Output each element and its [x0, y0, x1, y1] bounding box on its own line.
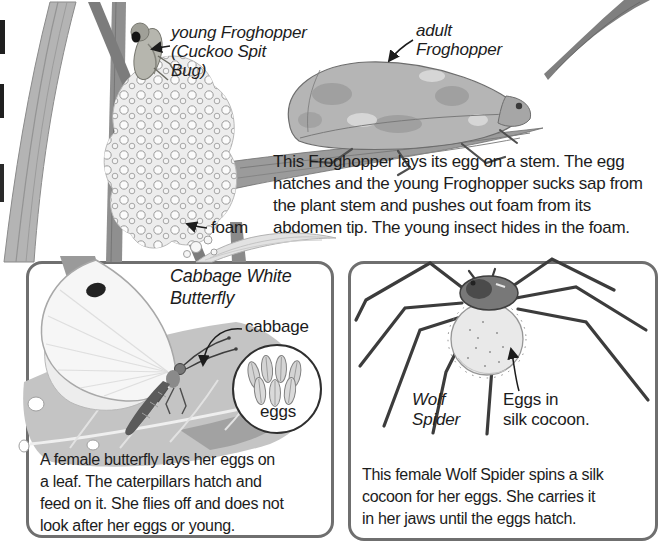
book-page: young Froghopper (Cuckoo Spit Bug) adult…: [0, 0, 666, 559]
eggs-label: eggs: [256, 402, 300, 421]
foam-label: foam: [211, 218, 248, 237]
butterfly-caption: A female butterfly lays her eggs on a le…: [40, 449, 332, 537]
page-edge-artifacts: [0, 20, 5, 202]
egg-sac: [451, 303, 523, 375]
cocoon-label: Eggs in silk cocoon.: [503, 390, 589, 430]
spider-caption: This female Wolf Spider spins a silk coc…: [362, 464, 652, 530]
spider-illustration: [356, 259, 648, 434]
adult-froghopper-arrow: [389, 40, 413, 61]
froghopper-paragraph: This Froghopper lays its egg on a stem. …: [273, 151, 665, 239]
cabbage-label: cabbage: [245, 317, 309, 336]
grass-blade-top-right: [544, 0, 650, 80]
young-froghopper-label: young Froghopper (Cuckoo Spit Bug): [171, 23, 307, 80]
butterfly-box-title: Cabbage White Butterfly: [170, 265, 291, 309]
adult-froghopper-label: adult Froghopper: [416, 21, 502, 59]
wolf-spider-label: Wolf Spider: [412, 390, 460, 430]
